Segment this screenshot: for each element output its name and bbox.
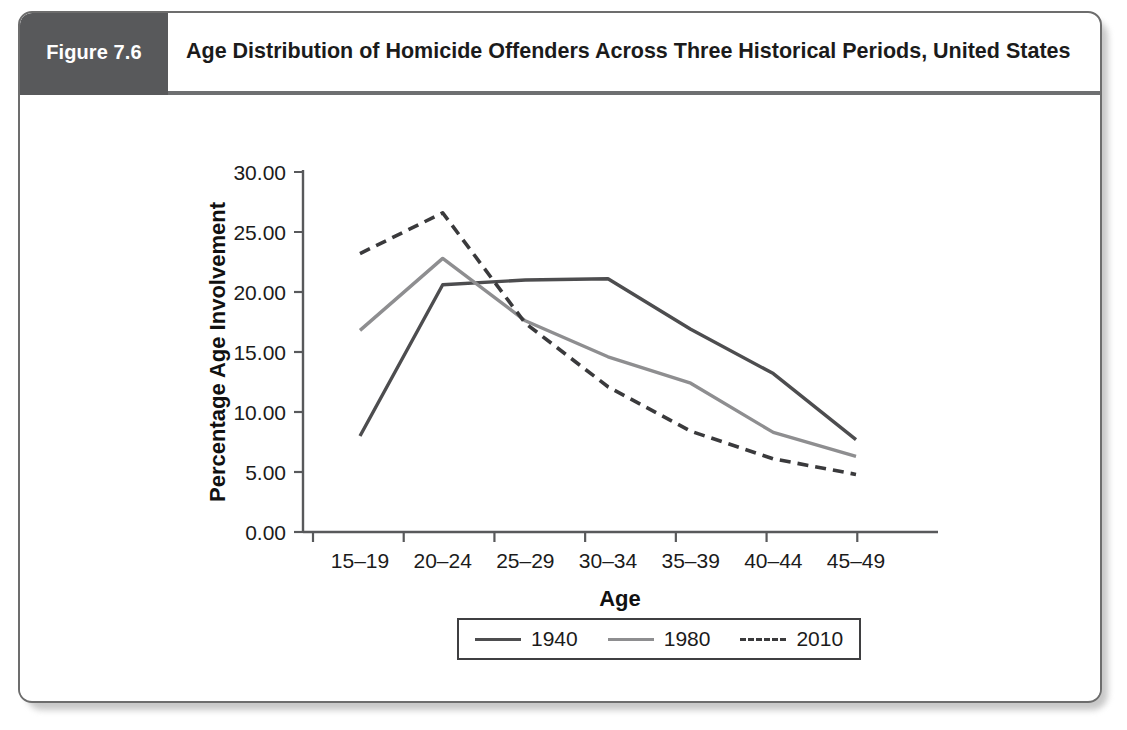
legend-line-dashed-icon bbox=[740, 638, 786, 641]
x-axis-tick-label: 45–49 bbox=[827, 549, 885, 572]
y-axis-tick-label: 15.00 bbox=[233, 341, 286, 364]
legend-label-2010: 2010 bbox=[796, 627, 843, 651]
y-axis-title: Percentage Age Involvement bbox=[205, 201, 230, 502]
figure-page: Figure 7.6 Age Distribution of Homicide … bbox=[0, 0, 1127, 730]
line-chart: 0.005.0010.0015.0020.0025.0030.0015–1920… bbox=[20, 97, 1100, 617]
legend-line-solid-dark-icon bbox=[475, 638, 521, 641]
legend-item-2010: 2010 bbox=[740, 627, 843, 651]
x-axis-tick-label: 20–24 bbox=[413, 549, 472, 572]
y-axis-tick-label: 5.00 bbox=[245, 461, 286, 484]
y-axis-tick-label: 0.00 bbox=[245, 521, 286, 544]
x-axis-tick-label: 35–39 bbox=[661, 549, 719, 572]
figure-number-label: Figure 7.6 bbox=[46, 41, 141, 64]
chart-region: 0.005.0010.0015.0020.0025.0030.0015–1920… bbox=[20, 97, 1100, 699]
x-axis-tick-label: 15–19 bbox=[331, 549, 389, 572]
y-axis-tick-label: 25.00 bbox=[233, 221, 286, 244]
x-axis-tick-label: 25–29 bbox=[496, 549, 554, 572]
x-axis-tick-label: 30–34 bbox=[579, 549, 638, 572]
series-line-1940 bbox=[360, 279, 856, 440]
figure-header: Figure 7.6 Age Distribution of Homicide … bbox=[20, 13, 1100, 93]
figure-number-tab: Figure 7.6 bbox=[20, 13, 168, 91]
x-axis-title: Age bbox=[599, 586, 641, 611]
chart-legend: 1940 1980 2010 bbox=[457, 618, 861, 660]
x-axis-tick-label: 40–44 bbox=[744, 549, 803, 572]
legend-label-1980: 1980 bbox=[664, 627, 711, 651]
y-axis-tick-label: 30.00 bbox=[233, 161, 286, 184]
legend-label-1940: 1940 bbox=[531, 627, 578, 651]
legend-item-1940: 1940 bbox=[475, 627, 578, 651]
y-axis-tick-label: 20.00 bbox=[233, 281, 286, 304]
series-line-1980 bbox=[360, 258, 856, 456]
header-divider-rule-right bbox=[168, 91, 1100, 95]
figure-title: Age Distribution of Homicide Offenders A… bbox=[186, 38, 1070, 66]
y-axis-tick-label: 10.00 bbox=[233, 401, 286, 424]
legend-line-solid-gray-icon bbox=[608, 638, 654, 641]
figure-card: Figure 7.6 Age Distribution of Homicide … bbox=[18, 11, 1102, 703]
legend-item-1980: 1980 bbox=[608, 627, 711, 651]
figure-title-container: Age Distribution of Homicide Offenders A… bbox=[168, 13, 1100, 91]
